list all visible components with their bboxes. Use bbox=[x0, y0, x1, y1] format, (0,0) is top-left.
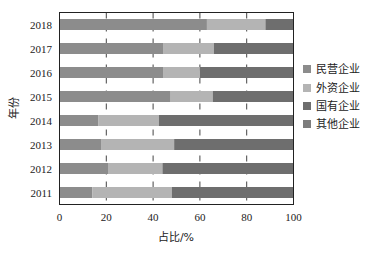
bar-segment bbox=[60, 139, 102, 150]
y-tick-label: 2017 bbox=[30, 43, 53, 55]
bar-segment bbox=[162, 163, 293, 174]
bar-segment bbox=[200, 67, 294, 78]
legend-label: 外资企业 bbox=[316, 81, 360, 95]
y-tick-label: 2018 bbox=[30, 19, 53, 31]
x-tick-label: 100 bbox=[285, 211, 302, 223]
bar-segment bbox=[60, 19, 207, 30]
bar-segment bbox=[172, 187, 294, 198]
legend-item: 国有企业 bbox=[303, 99, 360, 113]
bar-segment bbox=[207, 19, 265, 30]
bar-segment bbox=[60, 163, 109, 174]
bar-segment bbox=[213, 91, 294, 102]
bar-segment bbox=[159, 115, 294, 126]
plot-frame bbox=[60, 13, 294, 205]
bar-segment bbox=[174, 139, 293, 150]
bar-segment bbox=[98, 115, 159, 126]
x-axis-ticks: 020406080100 bbox=[57, 211, 303, 223]
bar-segment bbox=[109, 163, 163, 174]
y-tick-label: 2015 bbox=[30, 91, 53, 103]
x-tick-label: 40 bbox=[148, 211, 160, 223]
legend-label: 其他企业 bbox=[316, 117, 360, 131]
y-tick-label: 2016 bbox=[30, 67, 53, 79]
gridlines bbox=[106, 13, 246, 205]
legend-item: 外资企业 bbox=[303, 81, 360, 95]
bar-segment bbox=[164, 43, 214, 54]
bar-row-2017 bbox=[60, 43, 294, 54]
bar-row-2011 bbox=[60, 187, 294, 198]
bar-segment bbox=[60, 91, 171, 102]
legend-swatch-icon bbox=[303, 84, 311, 92]
legend-swatch-icon bbox=[303, 120, 311, 128]
bar-row-2014 bbox=[60, 115, 294, 126]
legend-swatch-icon bbox=[303, 65, 311, 73]
y-tick-label: 2014 bbox=[30, 115, 53, 127]
y-tick-label: 2011 bbox=[30, 187, 52, 199]
bars bbox=[60, 19, 294, 198]
bar-segment bbox=[60, 115, 99, 126]
stacked-bar-chart: 020406080100 201820172016201520142013201… bbox=[0, 0, 370, 254]
y-tick-label: 2013 bbox=[30, 139, 53, 151]
x-axis-title: 占比/% bbox=[158, 230, 194, 244]
x-tick-label: 20 bbox=[101, 211, 113, 223]
bar-segment bbox=[60, 43, 164, 54]
bar-row-2013 bbox=[60, 139, 294, 150]
bar-segment bbox=[164, 67, 200, 78]
legend: 民营企业外资企业国有企业其他企业 bbox=[303, 62, 360, 131]
y-axis-ticks: 20182017201620152014201320122011 bbox=[30, 19, 53, 199]
bar-segment bbox=[214, 43, 294, 54]
bar-segment bbox=[92, 187, 172, 198]
legend-item: 其他企业 bbox=[303, 117, 360, 131]
bar-row-2018 bbox=[60, 19, 294, 30]
y-tick-label: 2012 bbox=[30, 163, 52, 175]
legend-label: 国有企业 bbox=[316, 99, 360, 113]
legend-item: 民营企业 bbox=[303, 62, 360, 76]
legend-swatch-icon bbox=[303, 102, 311, 110]
bar-segment bbox=[102, 139, 175, 150]
legend-label: 民营企业 bbox=[316, 62, 360, 76]
bar-segment bbox=[60, 187, 93, 198]
bar-row-2015 bbox=[60, 91, 294, 102]
bar-segment bbox=[60, 67, 164, 78]
bar-row-2012 bbox=[60, 163, 294, 174]
bar-row-2016 bbox=[60, 67, 294, 78]
x-tick-label: 0 bbox=[57, 211, 63, 223]
bar-segment bbox=[171, 91, 213, 102]
y-axis-title: 年份 bbox=[7, 97, 21, 119]
x-tick-label: 80 bbox=[241, 211, 253, 223]
x-tick-label: 60 bbox=[194, 211, 206, 223]
bar-segment bbox=[265, 19, 293, 30]
